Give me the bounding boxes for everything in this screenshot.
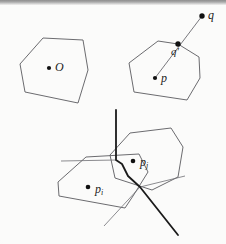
panel-middle-polygon-with-ray — [129, 13, 205, 100]
geometry-canvas — [0, 0, 226, 244]
point-pi-dot — [86, 185, 91, 190]
figure-root: O p q′ q pi pj — [0, 0, 226, 244]
panel-left-polygon-with-center — [20, 38, 88, 103]
label-q: q — [208, 9, 214, 21]
subdivision-ray-lower-left — [104, 187, 140, 226]
label-pj-subscript: j — [146, 161, 148, 170]
label-o: O — [55, 61, 64, 73]
separator-polyline — [116, 110, 178, 235]
panel-bottom-overlapping-polygons — [58, 110, 185, 235]
point-q-dot — [199, 13, 204, 18]
subdivision-ray-right — [140, 176, 185, 187]
polygon-o — [20, 38, 88, 103]
subdivision-ray-left — [61, 160, 116, 161]
label-pi: pi — [95, 183, 103, 195]
label-pj: pj — [140, 156, 148, 168]
label-p: p — [161, 72, 167, 84]
label-q-prime: q′ — [171, 46, 179, 57]
point-pj-dot — [131, 159, 136, 164]
label-pi-subscript: i — [101, 188, 103, 197]
point-p-dot — [153, 76, 157, 80]
point-o-dot — [47, 66, 51, 70]
